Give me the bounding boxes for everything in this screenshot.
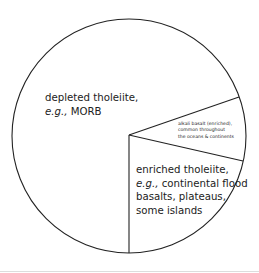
label-depleted-line2: e.g., MORB	[45, 105, 138, 119]
label-enriched-line2-rest: continental flood	[158, 178, 247, 189]
label-eg: e.g.,	[45, 106, 67, 117]
label-eg: e.g.,	[136, 178, 158, 189]
label-enriched-line2: e.g., continental flood	[136, 177, 248, 191]
label-enriched-line1: enriched tholeiite,	[136, 163, 248, 177]
label-depleted-tholeiite: depleted tholeiite, e.g., MORB	[45, 91, 138, 118]
label-enriched-line4: some islands	[136, 204, 248, 218]
label-enriched-tholeiite: enriched tholeiite, e.g., continental fl…	[136, 163, 248, 217]
bottom-divider	[0, 271, 259, 272]
label-enriched-line3: basalts, plateaus,	[136, 190, 248, 204]
label-alkali-line3: the oceans & continents	[178, 134, 234, 140]
label-morb: MORB	[67, 106, 101, 117]
label-alkali-basalt: alkali basalt (enriched), common through…	[178, 121, 234, 140]
label-depleted-line1: depleted tholeiite,	[45, 91, 138, 105]
